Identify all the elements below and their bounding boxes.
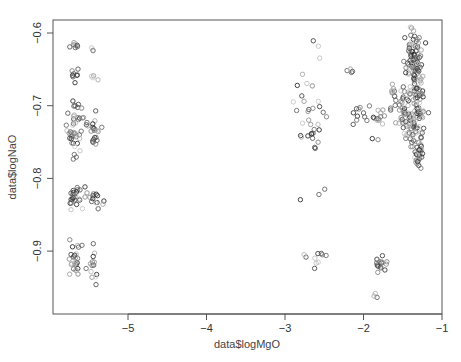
x-tick-label: −4 <box>200 322 213 334</box>
data-point <box>408 85 412 89</box>
data-point <box>316 140 320 144</box>
data-point <box>390 82 394 86</box>
data-point <box>351 122 355 126</box>
data-point <box>73 81 77 85</box>
y-tick-label: −0.6 <box>31 22 43 44</box>
data-point <box>376 138 380 142</box>
data-point <box>299 135 303 139</box>
data-point <box>393 103 397 107</box>
data-point <box>394 98 398 102</box>
data-point <box>380 122 384 126</box>
data-point <box>316 99 320 103</box>
data-point <box>316 44 320 48</box>
data-points <box>64 25 431 300</box>
data-point <box>300 121 304 125</box>
data-point <box>69 208 73 212</box>
data-point <box>324 115 328 119</box>
data-point <box>294 108 298 112</box>
data-point <box>78 149 82 153</box>
data-point <box>70 245 74 249</box>
data-point <box>71 99 75 103</box>
data-point <box>365 118 369 122</box>
data-point <box>300 94 304 98</box>
data-point <box>295 83 299 87</box>
data-point <box>311 39 315 43</box>
data-point <box>64 123 68 127</box>
data-point <box>323 187 327 191</box>
data-point <box>311 106 315 110</box>
data-point <box>401 85 405 89</box>
data-point <box>380 254 384 258</box>
data-point <box>317 104 321 108</box>
data-point <box>100 125 104 129</box>
data-point <box>89 269 93 273</box>
y-axis: −0.6−0.7−0.8−0.9 <box>31 22 53 262</box>
data-point <box>96 206 100 210</box>
data-point <box>96 78 100 82</box>
data-point <box>76 67 80 71</box>
data-point <box>422 126 426 130</box>
data-point <box>298 198 302 202</box>
data-point <box>317 128 321 132</box>
plot-frame <box>53 20 442 314</box>
data-point <box>376 108 380 112</box>
x-tick-label: −5 <box>122 322 135 334</box>
data-point <box>94 282 98 286</box>
data-point <box>68 238 72 242</box>
data-point <box>402 59 406 63</box>
data-point <box>408 25 412 29</box>
x-axis: −5−4−3−2−1 <box>122 314 449 334</box>
data-point <box>291 100 295 104</box>
y-axis-label: data$logNaO <box>6 134 18 199</box>
data-point <box>67 257 71 261</box>
data-point <box>406 103 410 107</box>
data-point <box>68 272 72 276</box>
data-point <box>426 111 430 115</box>
data-point <box>367 104 371 108</box>
data-point <box>317 192 321 196</box>
data-point <box>312 266 316 270</box>
data-point <box>316 122 320 126</box>
data-point <box>313 256 317 260</box>
x-tick-label: −2 <box>357 322 370 334</box>
data-point <box>66 111 70 115</box>
data-point <box>94 109 98 113</box>
data-point <box>321 110 325 114</box>
data-point <box>79 129 83 133</box>
x-axis-label: data$logMgO <box>214 338 280 350</box>
x-tick-label: −1 <box>436 322 449 334</box>
y-tick-label: −0.8 <box>31 168 43 190</box>
data-point <box>91 242 95 246</box>
data-point <box>419 48 423 52</box>
data-point <box>83 185 87 189</box>
y-tick-label: −0.7 <box>31 95 43 117</box>
data-point <box>80 206 84 210</box>
data-point <box>370 136 374 140</box>
data-point <box>310 136 314 140</box>
y-tick-label: −0.9 <box>31 240 43 262</box>
data-point <box>302 99 306 103</box>
data-point <box>68 45 72 49</box>
data-point <box>423 41 427 45</box>
data-point <box>403 36 407 40</box>
data-point <box>309 122 313 126</box>
data-point <box>351 111 355 115</box>
scatter-chart: −5−4−3−2−1 −0.6−0.7−0.8−0.9 data$logMgO … <box>0 0 461 362</box>
x-tick-label: −3 <box>279 322 292 334</box>
data-point <box>300 72 304 76</box>
data-point <box>307 118 311 122</box>
data-point <box>85 191 89 195</box>
data-point <box>74 202 78 206</box>
data-point <box>305 81 309 85</box>
data-point <box>376 270 380 274</box>
data-point <box>84 266 88 270</box>
data-point <box>80 243 84 247</box>
data-point <box>318 56 322 60</box>
